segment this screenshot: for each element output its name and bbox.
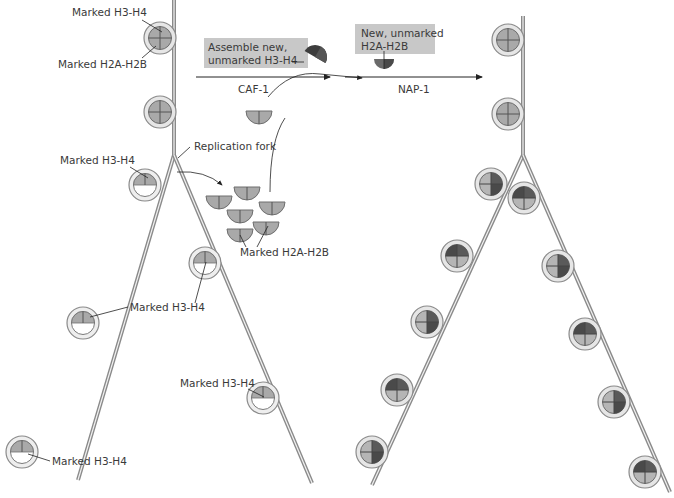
label-marked-h3h4-2: Marked H3-H4	[130, 301, 205, 313]
mixed-nucleosome	[411, 306, 443, 338]
recycled-dimer	[246, 111, 272, 124]
mixed-nucleosome	[542, 250, 574, 282]
label-marked-h2ah2b-top: Marked H2A-H2B	[58, 58, 147, 70]
label-marked-h3h4-right: Marked H3-H4	[180, 377, 255, 389]
mixed-nucleosome	[475, 168, 507, 200]
caf-box-line2: unmarked H3-H4	[208, 54, 298, 66]
parental-nucleosome	[492, 98, 524, 130]
mixed-nucleosome	[356, 436, 388, 468]
label-marked-h3h4-bottom: Marked H3-H4	[52, 455, 127, 467]
mixed-nucleosome	[508, 182, 540, 214]
nap-box-line1: New, unmarked	[361, 27, 444, 39]
mixed-nucleosome	[629, 456, 661, 488]
mixed-nucleosome	[598, 386, 630, 418]
mixed-nucleosome	[381, 374, 413, 406]
nap-label: NAP-1	[398, 83, 430, 95]
caf-box-line1: Assemble new,	[208, 41, 287, 53]
caf-label: CAF-1	[238, 83, 269, 95]
left-dna	[78, 0, 312, 483]
label-marked-h3h4-1: Marked H3-H4	[60, 154, 135, 166]
half-nucleosome	[129, 169, 161, 201]
parental-nucleosome	[492, 24, 524, 56]
parental-nucleosome	[144, 22, 176, 54]
parental-nucleosome	[144, 96, 176, 128]
half-nucleosome	[6, 436, 38, 468]
replication-diagram: Marked H3-H4 Marked H2A-H2B Replication …	[0, 0, 674, 498]
mixed-nucleosome	[441, 240, 473, 272]
new-h3h4-dimer	[305, 41, 332, 63]
dimer-pool	[206, 187, 285, 242]
mixed-nucleosome	[569, 318, 601, 350]
label-marked-h2ah2b-pool: Marked H2A-H2B	[240, 246, 329, 258]
nap-box-line2: H2A-H2B	[361, 40, 408, 52]
half-nucleosome	[67, 307, 99, 339]
half-nucleosome	[189, 247, 221, 279]
label-replication-fork: Replication fork	[194, 140, 277, 152]
label-marked-h3h4-top: Marked H3-H4	[72, 6, 147, 18]
